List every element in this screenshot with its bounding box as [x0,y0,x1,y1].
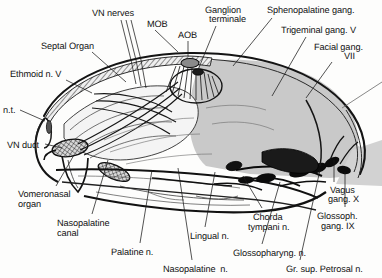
label-facial-gang-2: VII [344,51,355,61]
label-ethmoid-n-v: Ethmoid n. V [10,69,61,79]
vomeronasal-caudal-body [96,159,133,186]
label-gr-sup-petrosal-n: Gr. sup. Petrosal n. [286,264,363,274]
lingual-nerve [214,183,262,190]
label-trigeminal-gang: Trigeminal gang. V [281,25,356,35]
label-aob: AOB [178,30,197,40]
label-glossopharyng-n: Glossopharyng. n. [233,248,306,258]
occipital-edge [342,82,382,108]
label-glossoph-gang-1: Glossoph. [317,211,357,221]
label-facial-gang-1: Facial gang. [314,42,363,52]
label-chorda-tympani-n-2: tympani n. [248,222,289,232]
palatine-nerve [152,178,232,186]
label-nasopalatine-canal-1: Nasopalatine [57,218,109,228]
label-palatine-n: Palatine n. [111,247,153,257]
label-mob: MOB [147,19,168,29]
label-nasopalatine-n: Nasopalatine n. [163,264,228,274]
glossopharyngeal-nerve [280,181,326,186]
anatomical-figure: VN nervesMOBAOBGanglionterminaleSphenopa… [0,0,382,278]
leader-line-mob-leader [155,30,178,52]
leader-line-nt-leader [20,110,45,121]
label-ganglion-terminale-2: terminale [209,14,246,24]
label-vomeronasal-organ-1: Vomeronasal [18,189,71,199]
label-vn-duct: VN duct [7,140,39,150]
label-nasopalatine-canal-2: canal [57,228,78,238]
label-septal-organ: Septal Organ [41,41,94,51]
label-glossoph-gang-2: gang. IX [321,221,354,231]
accessory-olfactory-bulb [181,59,199,68]
nt-marker [46,121,51,134]
label-sphenopalatine-gang: Sphenopalatine gang. [267,5,354,15]
leader-line-vn-nerves-c [131,20,146,88]
label-lingual-n: Lingual n. [190,231,229,241]
nasopalatine-canal-shape [62,156,88,192]
label-vn-nerves: VN nerves [92,8,134,18]
label-vagus-gang-2: gang. X [328,194,359,204]
label-chorda-tympani-n-1: Chorda [253,212,283,222]
label-vomeronasal-organ-2: organ [18,199,41,209]
label-n-t: n.t. [3,105,15,115]
